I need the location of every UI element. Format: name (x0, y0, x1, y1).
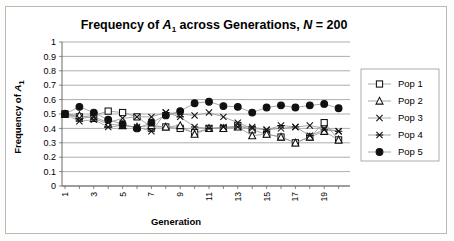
marker-filled-circle (76, 103, 83, 110)
marker-filled-circle (177, 108, 184, 115)
x-tick-label: 5 (118, 192, 128, 197)
y-tick-label: 1 (51, 37, 56, 47)
marker-filled-circle (220, 103, 227, 110)
legend-label: Pop 1 (398, 78, 423, 89)
marker-open-square (120, 109, 126, 115)
marker-filled-circle (234, 103, 241, 110)
marker-filled-circle (206, 98, 213, 105)
marker-filled-circle (134, 125, 141, 132)
y-axis-label: Frequency of A1 (12, 80, 26, 154)
x-tick-label: 3 (89, 192, 99, 197)
gridlines (59, 42, 350, 186)
title-part-1: Frequency of (81, 18, 163, 32)
marker-filled-circle (162, 112, 169, 119)
legend-label: Pop 2 (398, 95, 423, 106)
marker-filled-circle (278, 102, 285, 109)
y-label-part-1: Frequency of (12, 92, 23, 154)
x-tick-label: 1 (60, 192, 70, 197)
y-tick-label: 0.8 (43, 66, 56, 76)
y-tick-label: 0.5 (43, 109, 56, 119)
marker-filled-circle (321, 101, 328, 108)
x-tick-label: 7 (146, 192, 156, 197)
title-italic-a: A (162, 18, 172, 32)
x-tick-label: 15 (262, 192, 272, 202)
marker-filled-circle (306, 102, 313, 109)
x-tick-label: 19 (319, 192, 329, 202)
marker-filled-circle (376, 149, 383, 156)
legend-label: Pop 3 (398, 112, 423, 123)
y-label-italic-a: A (12, 85, 23, 93)
marker-filled-circle (249, 109, 256, 116)
frequency-line-chart: Frequency of A1 across Generations, N = … (6, 7, 446, 233)
y-tick-label: 0.6 (43, 95, 56, 105)
x-tick-label: 17 (290, 192, 300, 202)
y-tick-label: 0 (51, 181, 56, 191)
y-tick-label: 0.3 (43, 138, 56, 148)
marker-filled-circle (335, 105, 342, 112)
title-part-3: = 200 (312, 18, 347, 32)
x-tick-label: 13 (233, 192, 243, 202)
x-axis-label: Generation (151, 216, 201, 227)
marker-filled-circle (119, 121, 126, 128)
x-tick-labels: 135791113151719 (60, 192, 329, 202)
y-tick-label: 0.9 (43, 52, 56, 62)
y-tick-label: 0.7 (43, 80, 56, 90)
y-tick-label: 0.4 (43, 124, 56, 134)
marker-open-square (105, 108, 111, 114)
x-tick-label: 9 (175, 192, 185, 197)
marker-filled-circle (90, 109, 97, 116)
legend-label: Pop 5 (398, 146, 423, 157)
marker-filled-circle (62, 111, 69, 118)
marker-filled-circle (292, 104, 299, 111)
chart-legend: Pop 1Pop 2Pop 3Pop 4Pop 5 (361, 69, 439, 161)
marker-filled-circle (148, 119, 155, 126)
screenshot-root: Frequency of A1 across Generations, N = … (0, 0, 454, 241)
series-layer (61, 98, 342, 146)
chart-frame: Frequency of A1 across Generations, N = … (5, 6, 447, 234)
legend-label: Pop 4 (398, 129, 423, 140)
marker-open-square (321, 120, 327, 126)
y-tick-label: 0.1 (43, 167, 56, 177)
y-tick-label: 0.2 (43, 152, 56, 162)
marker-filled-circle (263, 104, 270, 111)
marker-open-square (376, 81, 382, 87)
y-tick-labels: 10.90.80.70.60.50.40.30.20.10 (43, 37, 56, 191)
title-part-2: across Generations, (176, 18, 303, 32)
x-tick-label: 11 (204, 192, 214, 201)
marker-filled-circle (105, 116, 112, 123)
y-label-subscript-1: 1 (17, 80, 26, 85)
marker-filled-circle (191, 100, 198, 107)
chart-title: Frequency of A1 across Generations, N = … (81, 18, 348, 34)
